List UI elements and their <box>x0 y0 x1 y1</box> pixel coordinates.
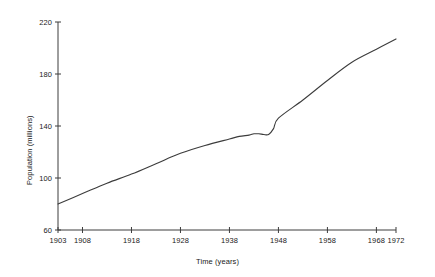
x-tick-label: 1948 <box>270 236 287 245</box>
y-tick-label: 220 <box>22 18 52 27</box>
x-tick-label: 1908 <box>74 236 91 245</box>
y-tick-label: 60 <box>22 226 52 235</box>
x-tick-label: 1928 <box>172 236 189 245</box>
x-tick-label: 1968 <box>368 236 385 245</box>
y-tick-label: 180 <box>22 70 52 79</box>
population-line-chart: 60100140180220 1903190819181928193819481… <box>0 0 435 277</box>
x-axis-title: Time (years) <box>0 257 435 266</box>
x-tick-label: 1972 <box>387 236 404 245</box>
x-tick-label: 1918 <box>123 236 140 245</box>
x-tick-label: 1958 <box>319 236 336 245</box>
x-tick-label: 1903 <box>49 236 66 245</box>
y-axis-title: Population (millions) <box>25 115 34 185</box>
population-data-line <box>58 39 396 204</box>
x-tick-label: 1938 <box>221 236 238 245</box>
